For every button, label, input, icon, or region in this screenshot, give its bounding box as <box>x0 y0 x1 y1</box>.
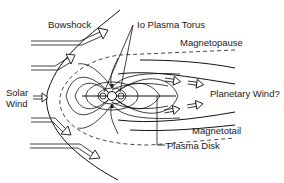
label-magnetotail: Magnetotail <box>192 125 241 136</box>
magnetic-field-lines <box>66 58 180 134</box>
planetary-wind-arrows <box>163 75 204 116</box>
solar-wind-arrows <box>30 28 108 159</box>
label-magnetopause: Magnetopause <box>180 37 243 48</box>
magnetosphere-diagram: Bowshock Io Plasma Torus Magnetopause So… <box>0 0 284 183</box>
label-planetary-wind: Planetary Wind? <box>210 88 280 99</box>
label-wind: Wind <box>6 98 28 109</box>
label-plasma-disk: Plasma Disk <box>167 140 220 151</box>
label-bowshock: Bowshock <box>48 19 92 30</box>
label-io-plasma-torus: Io Plasma Torus <box>137 19 205 30</box>
label-solar: Solar <box>6 87 28 98</box>
